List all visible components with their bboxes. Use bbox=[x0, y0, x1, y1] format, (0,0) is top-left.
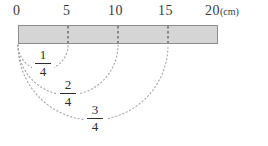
figure-canvas: 0 5 10 15 20(cm) 1 4 2 4 3 4 bbox=[0, 0, 268, 146]
fraction-denominator: 4 bbox=[84, 119, 106, 134]
axis-tick-label-5: 5 bbox=[63, 4, 71, 18]
ruler-bar bbox=[18, 25, 218, 44]
fraction-numerator: 1 bbox=[32, 48, 54, 63]
axis-tick-label-0: 0 bbox=[13, 4, 21, 18]
axis-tick-label-20-value: 20 bbox=[205, 3, 220, 18]
fraction-label-two-quarters: 2 4 bbox=[57, 78, 79, 108]
axis-tick-label-20: 20(cm) bbox=[205, 4, 239, 18]
axis-unit-label: (cm) bbox=[220, 6, 239, 17]
fraction-denominator: 4 bbox=[57, 94, 79, 109]
fraction-label-one-quarter: 1 4 bbox=[32, 48, 54, 78]
axis-tick-label-10: 10 bbox=[108, 4, 123, 18]
fraction-label-three-quarters: 3 4 bbox=[84, 103, 106, 133]
fraction-numerator: 2 bbox=[57, 78, 79, 93]
fraction-numerator: 3 bbox=[84, 103, 106, 118]
fraction-denominator: 4 bbox=[32, 64, 54, 79]
axis-tick-label-15: 15 bbox=[158, 4, 173, 18]
